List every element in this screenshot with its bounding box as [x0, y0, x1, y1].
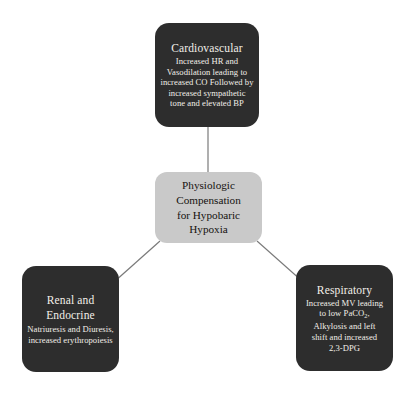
node-renal-endocrine[interactable]: Renal and Endocrine Natriuresis and Diur… — [22, 266, 119, 372]
node-center-line-3: for Hypobaric — [176, 208, 241, 223]
concept-map-diagram: Cardiovascular Increased HR and Vasodila… — [0, 0, 418, 396]
node-respiratory-paco2-post: , — [367, 308, 369, 318]
node-respiratory-body-line-5: 2,3-DPG — [306, 343, 383, 354]
node-renal-endocrine-body: Natriuresis and Diuresis, increased eryt… — [22, 324, 119, 345]
node-renal-endocrine-title: Renal and Endocrine — [46, 293, 95, 323]
node-renal-endocrine-title-line-2: Endocrine — [46, 308, 95, 323]
node-respiratory-body-line-3: Alkylosis and left — [306, 321, 383, 332]
node-respiratory-paco2-pre: to low PaCO — [319, 308, 364, 318]
node-center-line-2: Compensation — [176, 193, 241, 208]
node-respiratory-body-line-4: shift and increased — [306, 332, 383, 343]
connector-center-to-respiratory — [257, 241, 302, 281]
node-renal-endocrine-title-line-1: Renal and — [46, 293, 95, 308]
node-cardiovascular-title: Cardiovascular — [171, 41, 243, 55]
node-center-line-1: Physiologic — [176, 178, 241, 193]
node-cardiovascular[interactable]: Cardiovascular Increased HR and Vasodila… — [155, 23, 259, 127]
node-respiratory-body-line-1: Increased MV leading — [306, 298, 383, 309]
node-respiratory-title: Respiratory — [317, 283, 372, 297]
node-center-physiologic-compensation[interactable]: Physiologic Compensation for Hypobaric H… — [155, 172, 262, 243]
connector-center-to-renal — [114, 241, 160, 282]
node-respiratory-body-line-2: to low PaCO2, — [306, 308, 383, 321]
node-respiratory[interactable]: Respiratory Increased MV leading to low … — [296, 265, 393, 371]
node-center-text: Physiologic Compensation for Hypobaric H… — [170, 178, 247, 236]
node-center-line-4: Hypoxia — [176, 222, 241, 237]
node-cardiovascular-body: Increased HR and Vasodilation leading to… — [155, 56, 259, 109]
node-respiratory-body: Increased MV leading to low PaCO2, Alkyl… — [301, 298, 388, 354]
